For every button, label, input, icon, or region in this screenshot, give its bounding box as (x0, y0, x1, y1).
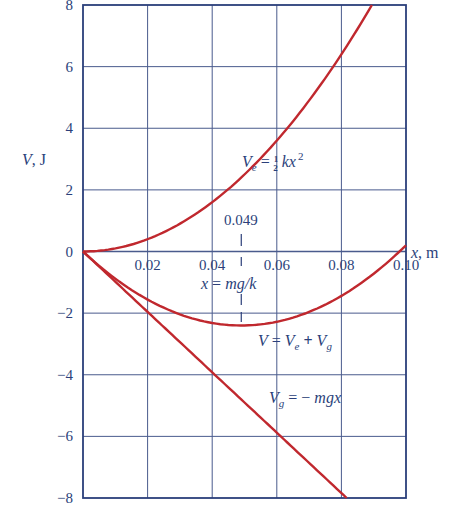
v-equation-label: V = Ve + Vg (258, 332, 332, 352)
grid (83, 5, 406, 498)
x-tick-label: 0.02 (134, 257, 160, 273)
y-tick-label: 0 (66, 244, 74, 260)
vg-equation-label: Vg = − mgx (269, 389, 341, 409)
y-tick-labels: 86420−2−4−6−8 (57, 0, 73, 506)
min-x-equation-label: x = mg/k (200, 275, 257, 293)
x-tick-label: 0.06 (264, 257, 291, 273)
y-axis-label: V, J (22, 151, 46, 168)
x-tick-label: 0.08 (328, 257, 354, 273)
y-tick-label: −6 (57, 428, 73, 444)
y-tick-label: 8 (66, 0, 74, 13)
y-tick-label: −4 (57, 367, 73, 383)
energy-chart: 86420−2−4−6−8 0.020.040.060.080.10 V, J … (0, 0, 463, 513)
y-tick-label: −8 (57, 490, 73, 506)
y-tick-label: 6 (66, 59, 74, 75)
min-x-value-label: 0.049 (224, 212, 258, 228)
y-tick-label: 2 (66, 182, 74, 198)
y-tick-label: −2 (57, 305, 73, 321)
y-tick-label: 4 (66, 120, 74, 136)
x-axis-label: x, m (410, 244, 439, 261)
ve-equation-label: Ve = 12 kx2 (242, 150, 303, 173)
x-tick-label: 0.04 (199, 257, 226, 273)
